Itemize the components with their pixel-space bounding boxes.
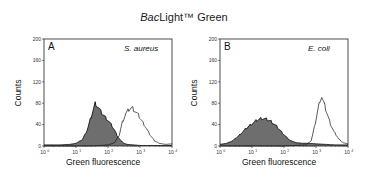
y-axis-label: Counts (189, 73, 199, 113)
figure-title-italic: Bac (140, 11, 159, 23)
svg-text:10: 10 (40, 149, 46, 155)
svg-text:3: 3 (319, 149, 321, 153)
species-label: E. coli (308, 44, 330, 53)
svg-text:3: 3 (143, 149, 145, 153)
svg-text:80: 80 (211, 100, 217, 106)
svg-text:1: 1 (79, 149, 81, 153)
svg-text:10: 10 (104, 149, 110, 155)
figure-title-rest: Light™ Green (159, 11, 227, 23)
svg-text:1: 1 (255, 149, 257, 153)
panel-label: B (224, 41, 231, 52)
svg-text:10: 10 (248, 149, 254, 155)
svg-text:2: 2 (287, 149, 289, 153)
svg-text:4: 4 (351, 149, 353, 153)
svg-text:40: 40 (211, 121, 217, 127)
svg-text:10: 10 (280, 149, 286, 155)
svg-text:0: 0 (214, 143, 217, 149)
svg-text:10: 10 (344, 149, 350, 155)
svg-text:40: 40 (35, 121, 41, 127)
svg-text:0: 0 (223, 149, 225, 153)
svg-text:120: 120 (209, 79, 218, 85)
svg-text:0: 0 (38, 143, 41, 149)
svg-text:160: 160 (33, 57, 42, 63)
panel-a: 04080120160200100101102103104 Counts Gre… (0, 30, 184, 170)
svg-text:10: 10 (168, 149, 174, 155)
svg-text:10: 10 (72, 149, 78, 155)
svg-text:80: 80 (35, 100, 41, 106)
x-axis-label: Green fluorescence (242, 157, 316, 167)
svg-text:200: 200 (209, 36, 218, 42)
panel-b: 04080120160200100101102103104 Counts Gre… (176, 30, 360, 170)
species-label: S. aureus (124, 44, 158, 53)
x-axis-label: Green fluorescence (66, 157, 140, 167)
svg-text:200: 200 (33, 36, 42, 42)
y-axis-label: Counts (13, 73, 23, 113)
svg-text:160: 160 (209, 57, 218, 63)
figure-title: BacLight™ Green (0, 11, 368, 23)
panel-b-plot: 04080120160200100101102103104 (176, 30, 360, 170)
panel-label: A (48, 41, 55, 52)
svg-text:0: 0 (47, 149, 49, 153)
svg-text:2: 2 (111, 149, 113, 153)
svg-text:120: 120 (33, 79, 42, 85)
svg-text:10: 10 (312, 149, 318, 155)
svg-text:10: 10 (216, 149, 222, 155)
svg-text:10: 10 (136, 149, 142, 155)
